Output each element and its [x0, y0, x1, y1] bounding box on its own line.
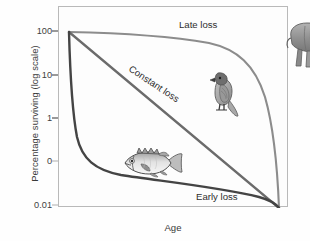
rhinoceros-illustration — [283, 15, 310, 71]
x-axis-label: Age — [60, 222, 286, 233]
fish-illustration — [121, 147, 183, 179]
bird-illustration — [209, 67, 243, 119]
curve-label-early-loss: Early loss — [196, 191, 238, 202]
y-tick-label-0-01: 0.01 — [14, 200, 52, 210]
plot-area: Late loss Constant loss Early loss — [58, 6, 288, 207]
y-tick-label-1: 1 — [14, 113, 52, 123]
y-tick-label-100: 100 — [14, 26, 52, 36]
survivorship-curve-figure: Percentage surviving (log scale) 100 10 … — [0, 0, 310, 241]
y-tick-label-0-1: 0 — [14, 156, 52, 166]
y-axis-tick-labels: 100 10 1 0 0.01 — [14, 0, 52, 241]
y-tick-label-10: 10 — [14, 70, 52, 80]
curve-label-late-loss: Late loss — [179, 19, 217, 30]
